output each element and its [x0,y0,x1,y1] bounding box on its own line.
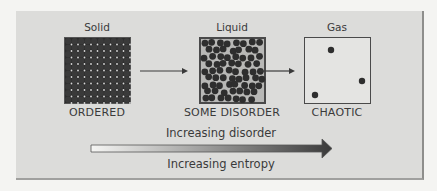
solid-particle [72,90,78,96]
solid-particle [78,51,84,57]
solid-particle [104,71,110,77]
lattice-gap [84,63,86,65]
lattice-gap [97,96,99,98]
solid-particle [117,84,123,90]
lattice-gap [116,83,118,85]
arrow-liquid-to-gas [260,68,295,74]
solid-particle [117,64,123,70]
lattice-gap [123,63,125,65]
liquid-particle [220,60,227,67]
liquid-particle [202,40,209,47]
lattice-gap [129,63,131,65]
lattice-gap [90,63,92,65]
solid-particle [72,38,78,44]
lattice-gap [110,76,112,78]
solid-particle [85,58,91,64]
solid-particle [117,71,123,77]
lattice-gap [110,83,112,85]
liquid-particle [206,46,213,53]
gas-particle [328,47,334,53]
lattice-gap [71,44,73,46]
liquid-particle [243,89,250,96]
lattice-gap [97,89,99,91]
solid-particle [85,77,91,83]
label-increasing-disorder: Increasing disorder [101,126,341,140]
lattice-gap [116,50,118,52]
lattice-gap [97,76,99,78]
solid-particle [111,64,117,70]
solid-particle [124,45,130,51]
lattice-gap [90,76,92,78]
solid-particle [91,45,97,51]
lattice-gap [77,57,79,59]
solid-particle [65,64,71,70]
liquid-particle [202,95,209,102]
solid-particle [117,45,123,51]
lattice-gap [129,44,131,46]
lattice-gap [110,63,112,65]
liquid-particle [226,67,233,74]
gas-particles [312,47,365,98]
lattice-gap [110,57,112,59]
lattice-gap [116,57,118,59]
solid-particle [72,51,78,57]
liquid-particle [245,61,252,68]
liquid-particle [236,87,243,94]
lattice-gap [110,44,112,46]
lattice-gap [84,83,86,85]
solid-particle [124,51,130,57]
solid-particle [111,84,117,90]
lattice-gap [84,96,86,98]
lattice-gap [116,70,118,72]
solid-particle [111,45,117,51]
solid-particle [117,38,123,44]
lattice-gap [71,76,73,78]
solid-particle [78,45,84,51]
lattice-gap [123,102,125,104]
solid-particle [98,71,104,77]
caption-ordered: ORDERED [37,106,157,119]
solid-particle [72,71,78,77]
liquid-particle [243,74,250,81]
liquid-particle [220,74,227,81]
liquid-particle [201,55,208,62]
liquid-particle [249,83,256,90]
solid-particle [65,71,71,77]
lattice-gap [129,83,131,85]
lattice-gap [71,63,73,65]
liquid-particle [233,95,240,102]
liquid-particle [232,68,239,75]
solid-particle [78,71,84,77]
solid-particle [124,77,130,83]
solid-particle [104,58,110,64]
lattice-gap [110,70,112,72]
lattice-gap [123,50,125,52]
lattice-gap [97,50,99,52]
liquid-particle [245,46,252,53]
lattice-gap [129,102,131,104]
liquid-particle [241,82,248,89]
solid-particle [65,84,71,90]
liquid-particle [232,53,239,60]
solid-particle [104,51,110,57]
solid-particle [104,84,110,90]
arrow-solid-to-liquid [140,68,188,74]
solid-particle [98,51,104,57]
lattice-gap [129,89,131,91]
solid-particle [78,97,84,103]
solid-particle [85,51,91,57]
lattice-gap [77,76,79,78]
lattice-gap [77,63,79,65]
liquid-particle [214,61,221,68]
solid-particle [72,45,78,51]
solid-particle [124,38,130,44]
lattice-gap [123,76,125,78]
lattice-gap [90,89,92,91]
solid-particle [111,58,117,64]
lattice-gap [103,89,105,91]
liquid-particle [249,39,256,46]
lattice-gap [84,44,86,46]
lattice-gap [103,102,105,104]
solid-particle [104,45,110,51]
solid-particle [104,64,110,70]
